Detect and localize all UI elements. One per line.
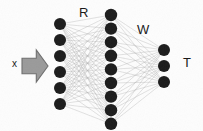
hidden-layer-node [105, 104, 117, 116]
network-graphics [0, 0, 203, 131]
hidden-layer-node [105, 63, 117, 75]
edges-input-to-hidden [60, 40, 111, 42]
output-layer-node [158, 60, 170, 72]
hidden-layer-node [105, 118, 117, 130]
edges-hidden-to-output [111, 82, 164, 83]
hidden-layer-node [105, 36, 117, 48]
input-layer-node [54, 34, 66, 46]
input-layer-node [54, 98, 66, 110]
edges-input-to-hidden [60, 40, 111, 97]
edges-input-to-hidden [60, 69, 111, 104]
weight-label-r: R [79, 6, 88, 19]
input-layer-node [54, 18, 66, 30]
hidden-layer-node [105, 22, 117, 34]
input-arrow [22, 50, 48, 82]
input-layer-node [54, 66, 66, 78]
nodes-layer [54, 9, 170, 130]
input-arrow-shape [22, 50, 48, 82]
input-layer-node [54, 50, 66, 62]
output-layer-node [158, 44, 170, 56]
input-label-x: x [12, 59, 17, 69]
output-layer-node [158, 76, 170, 88]
network-diagram-canvas: x R W T [0, 0, 203, 131]
edges-hidden-to-output [111, 82, 164, 97]
edges-input-to-hidden [60, 24, 111, 110]
edges-input-to-hidden [60, 15, 111, 56]
hidden-layer-node [105, 9, 117, 21]
output-label-t: T [183, 56, 191, 69]
edges-hidden-to-output [111, 50, 164, 97]
edges-hidden-to-output [111, 66, 164, 97]
input-layer-node [54, 82, 66, 94]
edges-input-to-hidden [60, 15, 111, 72]
hidden-layer-node [105, 77, 117, 89]
edges-input-to-hidden [60, 29, 111, 40]
edges-input-to-hidden [60, 40, 111, 124]
edges-hidden-to-output [111, 82, 164, 110]
edges-hidden-to-output [111, 42, 164, 66]
weight-label-w: W [137, 23, 149, 36]
hidden-layer-node [105, 50, 117, 62]
hidden-layer-node [105, 90, 117, 102]
